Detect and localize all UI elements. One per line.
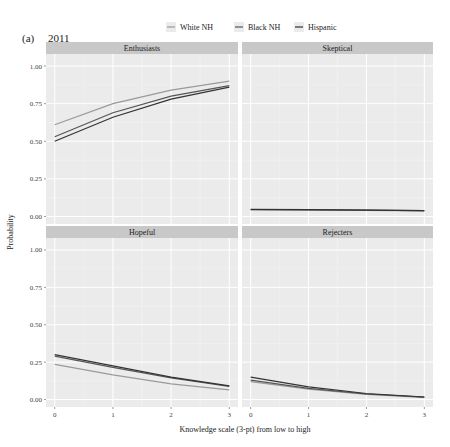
x-tick-label: 1	[307, 411, 311, 419]
facet-panel-hopeful: Hopeful0.000.250.500.751.000123	[30, 226, 238, 419]
x-tick-label: 0	[249, 411, 253, 419]
x-tick-label: 3	[228, 411, 232, 419]
x-tick-label: 2	[169, 411, 173, 419]
x-tick-label: 3	[423, 411, 427, 419]
x-tick-label: 0	[53, 411, 57, 419]
facet-strip-title: Rejecters	[323, 228, 353, 237]
y-tick-label: 0.50	[30, 321, 43, 329]
facet-strip-title: Enthusiasts	[124, 44, 160, 53]
facet-strip-title: Skeptical	[323, 44, 354, 53]
y-tick-label: 1.00	[30, 63, 43, 71]
y-axis-title: Probability	[6, 214, 15, 250]
y-tick-label: 0.75	[30, 100, 43, 108]
facet-panel-rejecters: Rejecters0123	[242, 226, 433, 419]
x-tick-label: 1	[111, 411, 115, 419]
y-tick-label: 1.00	[30, 246, 43, 254]
facet-strip-title: Hopeful	[129, 228, 156, 237]
facet-panel-skeptical: Skeptical	[242, 42, 433, 224]
y-tick-label: 0.75	[30, 284, 43, 292]
y-tick-label: 0.25	[30, 175, 43, 183]
y-tick-label: 0.25	[30, 359, 43, 367]
y-tick-label: 0.00	[30, 396, 43, 404]
legend-label: Hispanic	[308, 23, 337, 32]
facets: Enthusiasts0.000.250.500.751.00Skeptical…	[30, 42, 433, 419]
legend-label: White NH	[180, 23, 213, 32]
x-axis-title: Knowledge scale (3-pt) from low to high	[179, 425, 310, 434]
faceted-line-chart: White NHBlack NHHispanic (a) 2011 Enthus…	[0, 0, 450, 447]
y-tick-label: 0.50	[30, 138, 43, 146]
panel-label: (a)	[22, 32, 35, 45]
legend: White NHBlack NHHispanic	[166, 22, 337, 32]
x-tick-label: 2	[365, 411, 369, 419]
facet-panel-enthusiasts: Enthusiasts0.000.250.500.751.00	[30, 42, 238, 224]
legend-label: Black NH	[248, 23, 280, 32]
y-tick-label: 0.00	[30, 213, 43, 221]
